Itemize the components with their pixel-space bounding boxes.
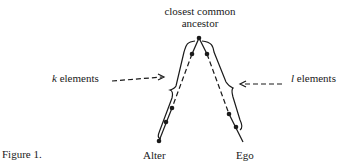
node-dots [157, 36, 239, 144]
tree-diagram [0, 0, 352, 168]
